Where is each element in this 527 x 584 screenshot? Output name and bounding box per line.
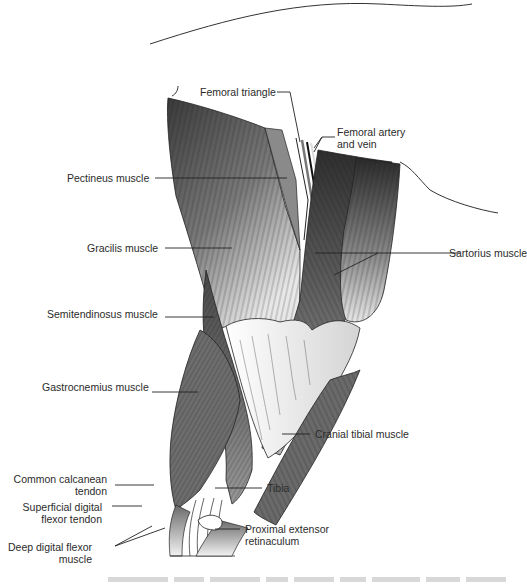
label-proximal-extensor-retinaculum-line1: Proximal extensor xyxy=(245,523,329,535)
body-outline-top xyxy=(150,3,472,44)
label-sdf-tendon-line1: Superficial digital xyxy=(23,501,102,513)
label-sdf-tendon-line2: flexor tendon xyxy=(41,513,102,525)
label-femoral-artery-vein-line2: and vein xyxy=(337,138,377,150)
label-gastrocnemius-muscle: Gastrocnemius muscle xyxy=(42,381,149,393)
retinaculum-shape xyxy=(198,515,222,530)
label-ddf-muscle-line2: muscle xyxy=(59,553,92,565)
label-femoral-artery-vein-line1: Femoral artery xyxy=(337,126,405,138)
label-common-calcanean-line2: tendon xyxy=(75,485,107,497)
label-femoral-triangle: Femoral triangle xyxy=(200,86,276,98)
label-proximal-extensor-retinaculum-line2: retinaculum xyxy=(245,535,299,547)
label-pectineus-muscle: Pectineus muscle xyxy=(67,172,149,184)
label-sartorius-muscle: Sartorius muscle xyxy=(449,247,527,259)
label-gracilis-muscle: Gracilis muscle xyxy=(87,242,158,254)
label-common-calcanean-line1: Common calcanean xyxy=(14,473,107,485)
body-outline-hip xyxy=(172,86,178,96)
label-cranial-tibial-muscle: Cranial tibial muscle xyxy=(315,428,409,440)
label-semitendinosus-muscle: Semitendinosus muscle xyxy=(47,308,158,320)
figure-caption-truncated xyxy=(108,575,518,584)
label-tibia: Tibia xyxy=(267,482,289,494)
label-ddf-muscle-line1: Deep digital flexor xyxy=(8,541,92,553)
body-outline-right xyxy=(400,162,498,213)
